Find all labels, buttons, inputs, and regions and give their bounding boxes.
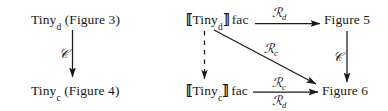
- script-c-glyph-left: 𝒞: [59, 46, 68, 61]
- edge-label-script-c-right: 𝒞: [333, 50, 342, 63]
- script-r-glyph: ℛ: [272, 5, 282, 20]
- node-tiny-c-subscript: c: [56, 93, 60, 103]
- edge-label-r-d-top: ℛd: [272, 6, 286, 19]
- arrow-diagonal: [214, 30, 316, 84]
- node-sem-tiny-d-subscript: d: [218, 22, 223, 32]
- script-r-subscript: c: [282, 82, 286, 92]
- node-tiny-d-subscript: d: [56, 22, 61, 32]
- close-oxford-bracket-icon: ⟧: [222, 83, 229, 98]
- node-tiny-d-figure3: Tinyd (Figure 3): [31, 13, 120, 30]
- edge-label-r-d-bottom: ℛd: [272, 94, 286, 107]
- node-tiny-c-base: Tiny: [31, 83, 56, 98]
- script-r-glyph: ℛ: [264, 41, 274, 56]
- commutative-diagram-figure: Tinyd (Figure 3) Tinyc (Figure 4) 𝒞 ⟦Tin…: [0, 0, 388, 111]
- node-sem-tiny-c-base: Tiny: [193, 83, 218, 98]
- node-tiny-d-base: Tiny: [31, 12, 56, 27]
- node-tiny-d-tail: (Figure 3): [65, 12, 120, 27]
- script-c-glyph-right: 𝒞: [333, 49, 342, 64]
- script-r-glyph: ℛ: [272, 93, 282, 108]
- edge-label-script-c-left: 𝒞: [59, 47, 68, 60]
- script-r-glyph: ℛ: [272, 75, 282, 90]
- edge-label-r-c-diagonal: ℛc: [264, 42, 278, 55]
- node-figure-5: Figure 5: [324, 13, 370, 27]
- node-sem-tiny-c-fac: ⟦Tinyc⟧fac: [186, 84, 248, 101]
- script-r-subscript: d: [282, 100, 286, 110]
- node-sem-tiny-d-fac: ⟦Tinyd⟧fac: [186, 13, 248, 30]
- script-r-subscript: d: [282, 12, 286, 22]
- node-sem-tiny-d-base: Tiny: [193, 12, 218, 27]
- edge-label-r-c-bottom: ℛc: [272, 76, 286, 89]
- node-sem-tiny-c-subscript: c: [218, 93, 222, 103]
- node-figure-6: Figure 6: [322, 84, 368, 98]
- close-oxford-bracket-icon: ⟧: [223, 12, 230, 27]
- node-sem-tiny-c-fac-tail: fac: [231, 83, 248, 98]
- node-sem-tiny-d-fac-tail: fac: [232, 12, 249, 27]
- node-tiny-c-tail: (Figure 4): [64, 83, 119, 98]
- node-tiny-c-figure4: Tinyc (Figure 4): [31, 84, 120, 101]
- script-r-subscript: c: [274, 48, 278, 58]
